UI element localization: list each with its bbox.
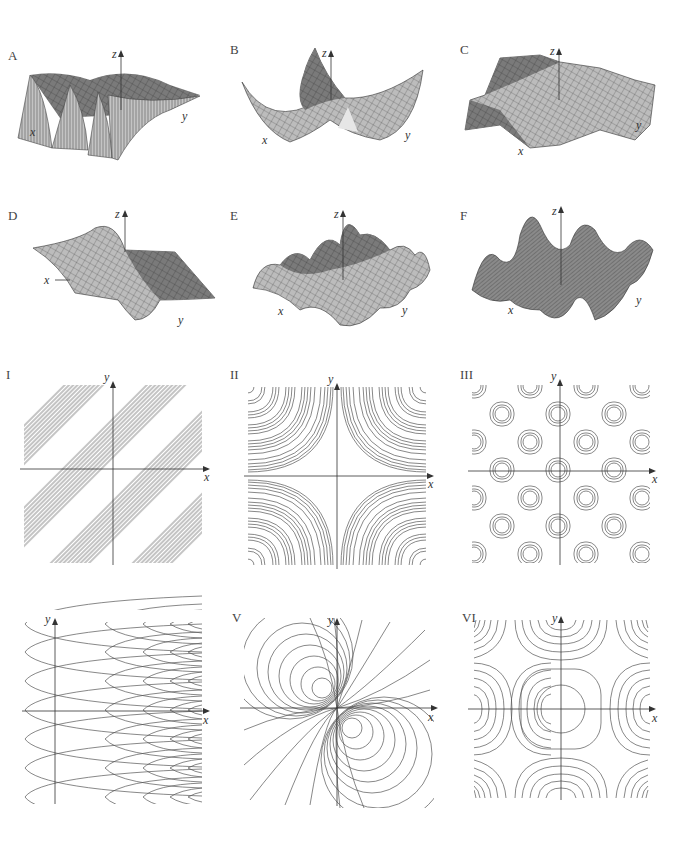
y-axis-label: y <box>44 612 51 626</box>
surface-plot-a: z x y <box>0 0 230 190</box>
x-axis-label: x <box>507 303 514 317</box>
contour-map-iv: y x <box>0 610 230 843</box>
x-axis-label: x <box>29 125 36 139</box>
z-axis-label: z <box>551 204 557 218</box>
y-axis-label: y <box>177 313 184 327</box>
y-axis-label: y <box>181 109 188 123</box>
surface-plot-d: z x y <box>0 190 230 365</box>
surface-panel-d: D z x y <box>0 190 230 365</box>
contour-map-iii: y x <box>460 365 694 590</box>
x-axis-label: x <box>261 133 268 147</box>
surface-panel-b: B z x y <box>230 0 460 190</box>
contour-panel-vi: VI <box>460 610 694 843</box>
y-axis-label: y <box>550 369 557 383</box>
y-axis-label: y <box>327 613 334 627</box>
contour-map-ii: y x <box>230 365 460 590</box>
y-axis-label: y <box>401 303 408 317</box>
x-axis-label: x <box>43 273 50 287</box>
surface-panel-f: F z x y <box>460 190 694 365</box>
contour-map-v: y x <box>230 610 460 843</box>
contour-panel-i: I y x <box>0 365 230 590</box>
y-axis-label: y <box>551 611 558 625</box>
contour-map-i: y x <box>0 365 230 590</box>
x-axis-label: x <box>427 710 434 724</box>
x-axis-label: x <box>427 477 434 491</box>
surface-plot-f: z x y <box>460 190 694 365</box>
z-axis-label: z <box>321 46 327 60</box>
surface-plot-b: z x y <box>230 0 460 190</box>
contour-panel-v: V y x <box>230 610 460 843</box>
contour-panel-iv: IV y x <box>0 610 230 843</box>
z-axis-label: z <box>114 207 120 221</box>
contour-map-vi: y x <box>460 610 694 843</box>
y-axis-label: y <box>404 128 411 142</box>
contour-panel-ii: II <box>230 365 460 590</box>
surface-plot-e: z x y <box>230 190 460 365</box>
x-axis-label: x <box>203 470 210 484</box>
surface-panel-a: A z x y <box>0 0 230 190</box>
y-axis-label: y <box>327 372 334 386</box>
y-axis-label: y <box>635 293 642 307</box>
x-axis-label: x <box>651 472 658 486</box>
surface-panel-e: E z x y <box>230 190 460 365</box>
x-axis-label: x <box>202 713 209 727</box>
y-axis-label: y <box>635 118 642 132</box>
z-axis-label: z <box>111 47 117 61</box>
x-axis-label: x <box>651 711 658 725</box>
z-axis-label: z <box>333 207 339 221</box>
y-axis-label: y <box>103 370 110 384</box>
x-axis-label: x <box>517 144 524 158</box>
surface-plot-c: z x y <box>460 0 694 190</box>
x-axis-label: x <box>277 304 284 318</box>
surface-panel-c: C z x y <box>460 0 694 190</box>
contour-panel-iii: III y x <box>460 365 694 590</box>
z-axis-label: z <box>549 44 555 58</box>
